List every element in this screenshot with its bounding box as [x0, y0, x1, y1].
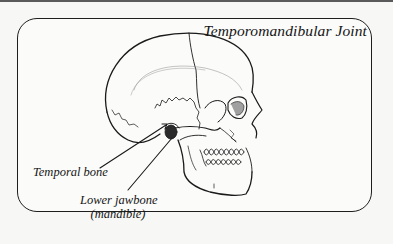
temporal-bone-leader: [100, 125, 166, 168]
tmj-condyle: [165, 125, 177, 139]
label-lower-jawbone-line1: Lower jawbone: [80, 193, 156, 207]
lower-teeth: [206, 160, 241, 165]
skull-illustration: [0, 0, 393, 244]
mandible-outline: [178, 140, 252, 195]
upper-teeth: [204, 149, 244, 155]
label-temporal-bone: Temporal bone: [33, 165, 108, 179]
label-lower-jawbone: Lower jawbone (mandible): [80, 193, 156, 221]
label-lower-jawbone-line2: (mandible): [80, 207, 156, 221]
